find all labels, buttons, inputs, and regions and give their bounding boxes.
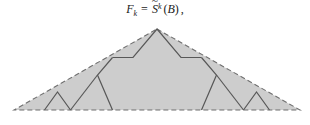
fractal-tile-diagram [0, 0, 310, 125]
triangle-fill-region [14, 29, 300, 110]
figure-root: Fk=~Sk(B), [0, 0, 310, 125]
